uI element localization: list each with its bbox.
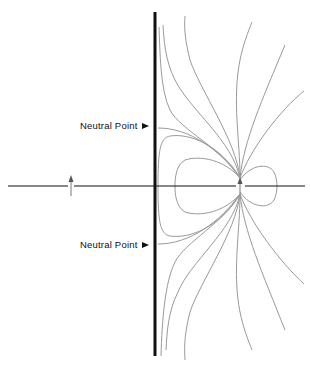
label-text: Neutral Point xyxy=(80,239,138,250)
dipole-arrow-icon xyxy=(238,177,243,194)
pointer-arrow-icon xyxy=(142,242,149,248)
label-text: Neutral Point xyxy=(80,120,138,131)
field-lines xyxy=(158,16,304,360)
pointer-arrow-icon xyxy=(142,123,149,129)
neutral-point-label-upper: Neutral Point xyxy=(80,120,149,131)
neutral-point-label-lower: Neutral Point xyxy=(80,239,149,250)
dipole-field-diagram xyxy=(0,0,310,370)
image-dipole-arrow-icon xyxy=(69,175,74,196)
